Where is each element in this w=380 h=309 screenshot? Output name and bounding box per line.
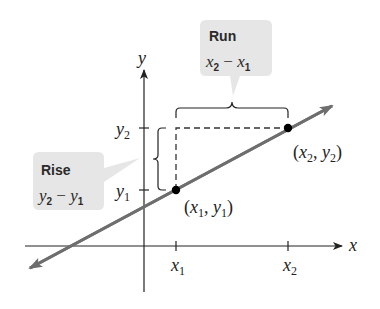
point-1-label: (x1, y1) [184, 197, 233, 220]
run-expression: x2 − x1 [205, 52, 251, 73]
x1-tick-label: x1 [170, 255, 185, 278]
rise-brace [153, 128, 166, 190]
y-axis-label: y [136, 48, 146, 68]
run-callout: Run x2 − x1 [200, 20, 272, 96]
point-x1-y1 [172, 186, 180, 194]
slope-diagram: Run x2 − x1 Rise y2 − y1 x y x1 x2 y2 y1… [0, 0, 380, 309]
y1-tick-label: y1 [114, 181, 130, 204]
rise-expression: y2 − y1 [37, 186, 84, 207]
run-brace [176, 102, 288, 118]
run-title: Run [209, 28, 236, 44]
point-2-label: (x2, y2) [293, 142, 342, 165]
y2-tick-label: y2 [114, 119, 130, 142]
x2-tick-label: x2 [282, 255, 297, 278]
rise-title: Rise [41, 162, 71, 178]
point-x2-y2 [284, 124, 292, 132]
x-axis-label: x [348, 235, 357, 255]
